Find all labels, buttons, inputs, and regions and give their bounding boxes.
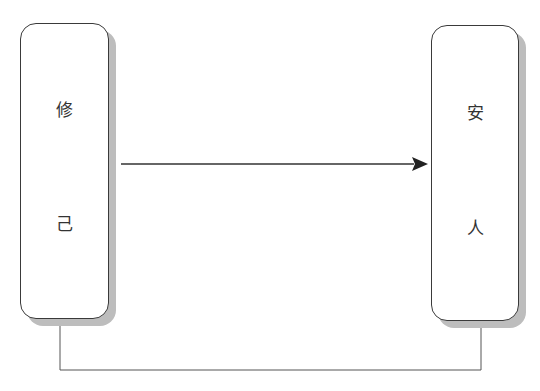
right-arrow bbox=[121, 157, 428, 171]
bottom-connector-line bbox=[60, 318, 481, 370]
char-ren: 人 bbox=[432, 214, 518, 239]
right-box-anren: 安 人 bbox=[431, 25, 519, 321]
char-an: 安 bbox=[432, 99, 518, 124]
char-ji: 己 bbox=[21, 210, 108, 235]
char-xiu: 修 bbox=[21, 96, 108, 121]
left-box-xiuji: 修 己 bbox=[20, 23, 109, 319]
